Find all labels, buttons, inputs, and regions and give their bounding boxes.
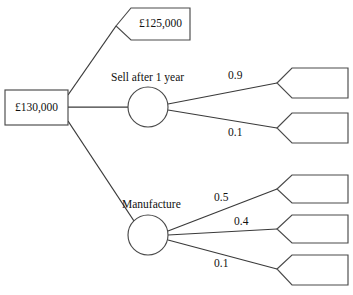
decision-tree-canvas: £130,000Sell after 1 yearManufacture£125…: [0, 0, 353, 295]
branch-probability-label-branch-sell-low: 0.1: [228, 126, 243, 138]
root-decision-node-label: £130,000: [15, 101, 58, 114]
branch-layer: [68, 26, 277, 269]
chance-node-caption-manufacture: Manufacture: [122, 198, 181, 210]
terminal-node-sell-outcome-high[interactable]: [277, 68, 348, 98]
branch-probability-label-branch-manufacture-low: 0.1: [214, 257, 229, 269]
terminal-node-manufacture-outcome-mid[interactable]: [277, 215, 348, 243]
branch-probability-label-branch-sell-high: 0.9: [228, 69, 243, 81]
branch-manufacture-mid[interactable]: [168, 229, 277, 235]
branch-sell-low[interactable]: [168, 110, 277, 128]
chance-node-manufacture[interactable]: [128, 215, 168, 255]
terminal-node-sell-outcome-low[interactable]: [277, 113, 348, 143]
branch-probability-label-branch-manufacture-mid: 0.4: [234, 215, 249, 227]
branch-sell-high[interactable]: [168, 83, 277, 104]
decision-tree-diagram: £130,000Sell after 1 yearManufacture£125…: [0, 0, 353, 295]
terminal-node-label-sell-now-payoff: £125,000: [139, 17, 182, 30]
chance-node-caption-sell-after-1-year: Sell after 1 year: [111, 71, 184, 84]
branch-root-to-sell-now[interactable]: [68, 26, 116, 95]
terminal-node-manufacture-outcome-low[interactable]: [277, 255, 348, 285]
node-layer: [5, 8, 348, 285]
branch-probability-label-branch-manufacture-high: 0.5: [214, 191, 229, 203]
terminal-node-manufacture-outcome-high[interactable]: [277, 175, 348, 203]
chance-node-sell-after-1-year[interactable]: [128, 87, 168, 127]
